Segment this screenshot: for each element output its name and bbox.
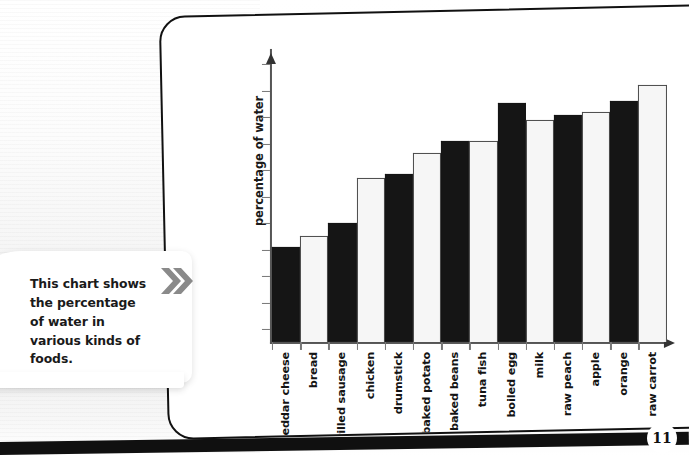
bar-slot[interactable] [469,77,497,342]
x-axis-category-label: raw peach [561,352,574,416]
x-axis-category-label: bread [308,352,321,388]
x-axis-label-slot: tuna fish [469,348,497,440]
x-axis-label-slot: grilled sausage [328,348,356,440]
caption-card-underlay [0,372,184,388]
y-axis-tick [262,90,270,91]
x-axis-category-label: grilled sausage [336,352,349,440]
x-axis-label-slot: raw peach [554,348,582,440]
chart-panel: percentage of water 0102030405060708090 … [159,4,689,440]
bar[interactable] [638,85,666,342]
x-axis-category-label: raw carrot [646,352,659,417]
bar-slot[interactable] [526,77,554,342]
x-axis-label-slot: drumstick [385,348,413,440]
x-axis-label-slot: cheddar cheese [272,348,300,440]
x-axis-category-label: baked beans [449,352,462,431]
bar[interactable] [385,174,413,342]
chart-plot-area: percentage of water 0102030405060708090 [270,34,675,344]
bar-slot[interactable] [272,77,300,342]
x-axis-label-slot: bread [300,348,328,440]
bar[interactable] [554,114,582,342]
x-axis-label-slot: orange [610,348,638,440]
x-axis-category-labels: cheddar cheesebreadgrilled sausagechicke… [272,348,667,440]
x-axis-category-label: drumstick [392,352,405,414]
bar[interactable] [357,178,385,342]
x-axis-label-slot: milk [526,348,554,440]
caption-text: This chart shows the percentage of water… [30,275,150,369]
x-axis-label-slot: boiled egg [497,348,525,440]
bar-slot[interactable] [357,77,385,342]
x-axis-label-slot: apple [582,348,610,440]
page-root: percentage of water 0102030405060708090 … [0,0,689,455]
x-axis-category-label: baked potato [420,352,433,435]
y-axis-tick [262,117,270,118]
bar-slot[interactable] [413,77,441,342]
y-axis-tick [262,223,270,224]
bar-slot[interactable] [328,77,356,342]
x-axis-category-label: apple [590,352,603,387]
bar[interactable] [413,153,441,342]
x-axis-category-label: boiled egg [505,352,518,418]
chart-panel-inner: percentage of water 0102030405060708090 … [170,18,689,438]
bar[interactable] [469,141,497,342]
x-axis-category-label: milk [533,352,546,378]
bar-slot[interactable] [638,77,666,342]
double-chevron-right-icon [160,266,194,296]
y-axis-tick [262,249,270,250]
bar[interactable] [272,247,300,342]
y-axis-arrow-icon [266,53,276,64]
bar-slot[interactable] [300,77,328,342]
x-axis-label-slot: baked beans [441,348,469,440]
bar[interactable] [526,120,554,343]
y-axis-tick [262,64,270,65]
y-axis-tick [262,170,270,171]
bar-slot[interactable] [385,77,413,342]
y-axis-tick [262,276,270,277]
y-axis-title: percentage of water [252,96,266,226]
y-axis-tick [262,143,270,144]
x-axis-label-slot: chicken [357,348,385,440]
x-axis-label-slot: baked potato [413,348,441,440]
x-axis-category-label: cheddar cheese [280,352,293,440]
x-axis-category-label: tuna fish [477,352,490,407]
page-number: 11 [647,423,677,453]
bar-slot[interactable] [441,77,469,342]
bar-slot[interactable] [497,77,525,342]
y-axis-tick [262,329,270,330]
bar-slot[interactable] [582,77,610,342]
x-axis-category-label: chicken [364,352,377,399]
y-axis-tick [262,196,270,197]
bar[interactable] [300,236,328,342]
bar[interactable] [328,223,356,342]
y-axis-tick [262,302,270,303]
bar[interactable] [497,103,525,343]
bar[interactable] [582,112,610,343]
x-axis-category-label: orange [618,352,631,396]
bar[interactable] [441,141,469,342]
bar[interactable] [610,101,638,342]
bar-slot[interactable] [610,77,638,342]
bar-slot[interactable] [554,77,582,342]
bar-series [272,77,667,342]
